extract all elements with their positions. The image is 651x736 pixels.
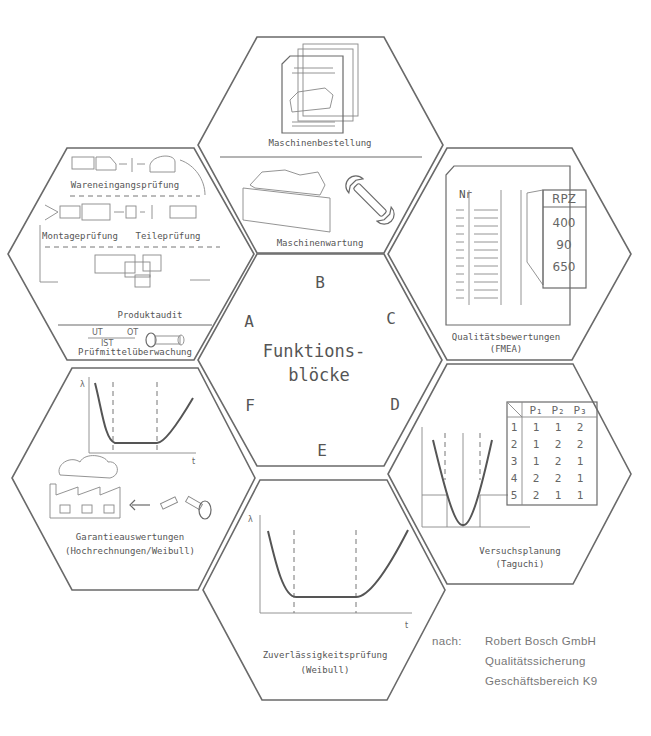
svg-text:OT: OT: [127, 328, 138, 337]
svg-text:2: 2: [577, 438, 584, 451]
rpz-header: RPZ: [552, 192, 576, 206]
svg-text:λ: λ: [248, 515, 253, 524]
svg-text:1: 1: [533, 421, 540, 434]
svg-text:650: 650: [553, 260, 576, 274]
credit-company: Robert Bosch GmbH: [485, 635, 596, 647]
credit-prefix: nach:: [432, 635, 462, 647]
label-qualitaetsbewertungen: Qualitätsbewertungen: [452, 332, 560, 342]
svg-text:4: 4: [511, 472, 518, 485]
label-teilepruefung: Teileprüfung: [135, 231, 200, 241]
label-wareneingangspruefung: Wareneingangsprüfung: [71, 180, 179, 190]
svg-text:1: 1: [533, 455, 540, 468]
letter-a: A: [244, 312, 254, 331]
svg-text:λ: λ: [80, 380, 85, 389]
svg-text:5: 5: [511, 489, 518, 502]
title-line-1: Funktions-: [263, 341, 365, 361]
label-maschinenwartung: Maschinenwartung: [277, 238, 364, 248]
svg-text:2: 2: [577, 421, 584, 434]
svg-text:2: 2: [533, 472, 540, 485]
svg-text:2: 2: [555, 455, 562, 468]
credit-department: Qualitätssicherung: [485, 655, 586, 667]
label-produktaudit: Produktaudit: [117, 310, 182, 320]
svg-text:90: 90: [556, 238, 571, 252]
svg-text:UT: UT: [92, 328, 103, 337]
svg-text:t: t: [192, 457, 195, 466]
svg-text:1: 1: [555, 421, 562, 434]
letter-d: D: [390, 395, 400, 414]
label-pruefmittelueberwachung: Prüfmittelüberwachung: [78, 347, 192, 357]
svg-text:Nr: Nr: [459, 188, 473, 201]
label-taguchi: (Taguchi): [496, 559, 545, 569]
svg-text:2: 2: [555, 472, 562, 485]
svg-text:1: 1: [511, 421, 518, 434]
label-versuchsplanung: Versuchsplanung: [479, 546, 560, 556]
label-maschinenbestellung: Maschinenbestellung: [269, 138, 372, 148]
credit-division: Geschäftsbereich K9: [485, 675, 597, 687]
hex-block-f: λ t Garantieauswertungen (Hochrechnungen…: [12, 368, 255, 590]
svg-text:t: t: [405, 621, 408, 630]
svg-text:1: 1: [577, 455, 584, 468]
letter-c: C: [386, 309, 396, 328]
svg-text:1: 1: [577, 472, 584, 485]
svg-text:P₃: P₃: [573, 404, 586, 417]
label-montagepruefung: Montageprüfung: [42, 231, 118, 241]
svg-text:2: 2: [533, 489, 540, 502]
svg-text:3: 3: [511, 455, 518, 468]
function-blocks-diagram: Maschinenbestellung Maschinenwartung War…: [0, 0, 651, 736]
letter-e: E: [317, 441, 327, 460]
title-line-2: blöcke: [288, 365, 349, 385]
svg-text:2: 2: [555, 438, 562, 451]
svg-text:P₂: P₂: [551, 404, 564, 417]
label-hochrechnungen-weibull: (Hochrechnungen/Weibull): [65, 546, 195, 556]
letter-f: F: [245, 396, 255, 415]
label-fmea: (FMEA): [490, 344, 523, 354]
label-weibull: (Weibull): [301, 665, 350, 675]
svg-text:400: 400: [553, 216, 576, 230]
svg-text:1: 1: [533, 438, 540, 451]
svg-text:P₁: P₁: [529, 404, 542, 417]
label-garantieauswertungen: Garantieauswertungen: [76, 532, 184, 542]
svg-text:1: 1: [577, 489, 584, 502]
svg-text:2: 2: [511, 438, 518, 451]
letter-b: B: [315, 273, 325, 292]
label-zuverlaessigkeitspruefung: Zuverlässigkeitsprüfung: [263, 650, 388, 660]
svg-text:1: 1: [555, 489, 562, 502]
